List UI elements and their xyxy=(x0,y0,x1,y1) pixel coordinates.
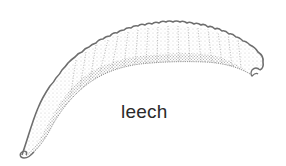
leech-illustration xyxy=(0,0,286,166)
leech-body xyxy=(22,26,263,157)
figure-label: leech xyxy=(121,101,167,123)
